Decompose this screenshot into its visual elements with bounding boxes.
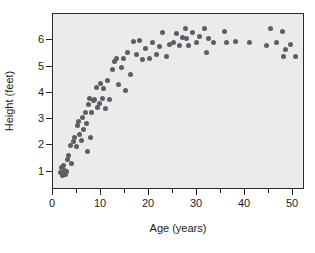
data-point: [202, 26, 207, 31]
data-points-layer: [53, 14, 303, 188]
x-tick-mark: [196, 189, 197, 195]
scatter-chart-figure: 123456 01020304050 Age (years) Height (f…: [0, 0, 315, 253]
x-tick-mark-minor: [76, 189, 77, 193]
x-tick-mark-minor: [268, 189, 269, 193]
data-point: [66, 153, 71, 158]
data-point: [177, 43, 182, 48]
data-point: [204, 50, 209, 55]
data-point: [72, 135, 77, 140]
x-tick-mark-minor: [124, 189, 125, 193]
data-point: [123, 88, 128, 93]
data-point: [174, 31, 179, 36]
data-point: [140, 57, 145, 62]
x-tick-label: 10: [85, 198, 115, 209]
y-tick-label: 4: [22, 86, 44, 97]
data-point: [171, 40, 176, 45]
data-point: [98, 81, 103, 86]
data-point: [97, 101, 102, 106]
data-point: [69, 161, 74, 166]
data-point: [79, 138, 84, 143]
data-point: [83, 110, 88, 115]
data-point: [247, 40, 252, 45]
y-tick-mark: [46, 66, 52, 67]
y-tick-label: 3: [22, 113, 44, 124]
y-tick-mark: [46, 118, 52, 119]
data-point: [224, 40, 229, 45]
y-tick-label: 2: [22, 139, 44, 150]
data-point: [131, 39, 136, 44]
y-tick-mark: [46, 92, 52, 93]
y-tick-label: 5: [22, 60, 44, 71]
y-tick-mark: [46, 144, 52, 145]
data-point: [88, 135, 93, 140]
data-point: [84, 121, 89, 126]
data-point: [80, 115, 85, 120]
x-tick-label: 30: [181, 198, 211, 209]
data-point: [288, 42, 293, 47]
data-point: [233, 39, 238, 44]
data-point: [85, 149, 90, 154]
x-tick-mark-minor: [220, 189, 221, 193]
data-point: [143, 46, 148, 51]
data-point: [190, 30, 195, 35]
data-point: [100, 96, 105, 101]
data-point: [77, 132, 82, 137]
data-point: [222, 29, 227, 34]
data-point: [114, 56, 119, 61]
data-point: [74, 144, 79, 149]
data-point: [134, 52, 139, 57]
plot-area: [52, 13, 304, 189]
x-tick-mark: [244, 189, 245, 195]
data-point: [293, 54, 298, 59]
data-point: [197, 34, 202, 39]
data-point: [160, 30, 165, 35]
y-tick-mark: [46, 39, 52, 40]
data-point: [121, 56, 126, 61]
data-point: [211, 40, 216, 45]
y-tick-label: 1: [22, 165, 44, 176]
data-point: [125, 50, 130, 55]
data-point: [268, 26, 273, 31]
data-point: [137, 38, 142, 43]
data-point: [119, 65, 124, 70]
data-point: [81, 127, 86, 132]
data-point: [89, 110, 94, 115]
data-point: [264, 43, 269, 48]
x-tick-mark-minor: [172, 189, 173, 193]
x-tick-mark: [100, 189, 101, 195]
data-point: [107, 97, 112, 102]
data-point: [101, 86, 106, 91]
data-point: [150, 40, 155, 45]
y-axis-label: Height (feet): [2, 13, 16, 189]
data-point: [154, 52, 159, 57]
data-point: [157, 44, 162, 49]
data-point: [274, 40, 279, 45]
data-point: [94, 85, 99, 90]
x-tick-label: 50: [277, 198, 307, 209]
data-point: [164, 54, 169, 59]
y-tick-label: 6: [22, 34, 44, 45]
data-point: [103, 106, 108, 111]
x-tick-label: 20: [133, 198, 163, 209]
x-tick-label: 0: [37, 198, 67, 209]
data-point: [61, 163, 66, 168]
x-tick-mark: [52, 189, 53, 195]
data-point: [86, 102, 91, 107]
x-tick-mark: [292, 189, 293, 195]
data-point: [194, 40, 199, 45]
data-point: [283, 47, 288, 52]
data-point: [183, 26, 188, 31]
data-point: [281, 54, 286, 59]
y-tick-mark: [46, 171, 52, 172]
x-tick-label: 40: [229, 198, 259, 209]
data-point: [128, 72, 133, 77]
data-point: [280, 29, 285, 34]
data-point: [184, 36, 189, 41]
x-tick-mark: [148, 189, 149, 195]
data-point: [76, 119, 81, 124]
data-point: [186, 43, 191, 48]
data-point: [105, 78, 110, 83]
data-point: [110, 67, 115, 72]
data-point: [147, 56, 152, 61]
x-axis-label: Age (years): [52, 222, 304, 234]
